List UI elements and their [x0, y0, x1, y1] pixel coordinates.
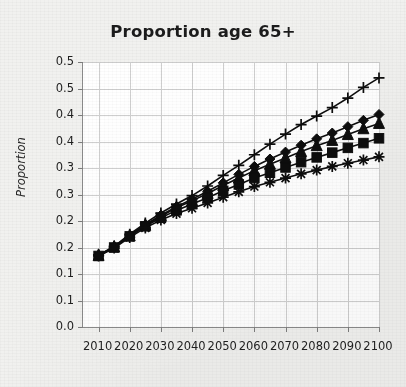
y-tick-label: 0.4: [40, 134, 74, 148]
marker-asterisk: [342, 158, 353, 169]
y-tick-label: 0.3: [40, 187, 74, 201]
marker-asterisk: [233, 186, 244, 197]
x-tick-mark: [286, 327, 287, 332]
x-tick-mark: [192, 327, 193, 332]
y-tick-mark: [78, 168, 83, 169]
marker-plus: [358, 82, 369, 93]
marker-square: [359, 138, 369, 148]
marker-square: [343, 143, 353, 153]
chart-title: Proportion age 65+: [0, 22, 406, 41]
marker-plus: [342, 93, 353, 104]
y-tick-mark: [78, 221, 83, 222]
marker-asterisk: [264, 177, 275, 188]
y-tick-label: 0.2: [40, 240, 74, 254]
y-tick-mark: [78, 301, 83, 302]
marker-square: [312, 153, 322, 163]
marker-asterisk: [109, 243, 120, 254]
y-tick-label: 0.1: [40, 266, 74, 280]
gridline-vertical: [379, 62, 380, 327]
x-tick-label: 2100: [358, 339, 398, 353]
y-axis-label: Proportion: [14, 122, 28, 212]
x-tick-mark: [223, 327, 224, 332]
marker-asterisk: [249, 181, 260, 192]
plot-area: [82, 62, 379, 328]
y-tick-mark: [78, 274, 83, 275]
y-tick-mark: [78, 248, 83, 249]
y-tick-mark: [78, 115, 83, 116]
marker-plus: [280, 129, 291, 140]
x-tick-mark: [99, 327, 100, 332]
marker-asterisk: [296, 168, 307, 179]
marker-square: [374, 134, 384, 144]
chart-figure: Proportion age 65+ Proportion 0.50.50.40…: [0, 0, 406, 387]
marker-asterisk: [327, 161, 338, 172]
y-tick-mark: [78, 89, 83, 90]
marker-square: [328, 148, 338, 158]
marker-asterisk: [171, 208, 182, 219]
x-tick-mark: [317, 327, 318, 332]
y-tick-mark: [78, 142, 83, 143]
marker-plus: [327, 102, 338, 113]
marker-asterisk: [140, 222, 151, 233]
marker-plus: [296, 119, 307, 130]
series-layer: [83, 62, 379, 327]
y-tick-mark: [78, 327, 83, 328]
marker-asterisk: [93, 250, 104, 261]
marker-triangle: [374, 117, 385, 129]
marker-asterisk: [358, 155, 369, 166]
y-tick-label: 0.0: [40, 319, 74, 333]
y-tick-label: 0.1: [40, 293, 74, 307]
y-tick-label: 0.5: [40, 54, 74, 68]
marker-asterisk: [155, 214, 166, 225]
marker-plus: [249, 149, 260, 160]
x-tick-mark: [161, 327, 162, 332]
marker-square: [281, 163, 291, 173]
x-tick-mark: [254, 327, 255, 332]
x-tick-mark: [379, 327, 380, 332]
marker-square: [265, 168, 275, 178]
marker-asterisk: [311, 165, 322, 176]
y-tick-label: 0.2: [40, 213, 74, 227]
y-tick-label: 0.5: [40, 81, 74, 95]
y-tick-mark: [78, 195, 83, 196]
x-tick-mark: [348, 327, 349, 332]
marker-asterisk: [218, 192, 229, 203]
y-tick-label: 0.4: [40, 107, 74, 121]
marker-plus: [311, 111, 322, 122]
y-tick-label: 0.3: [40, 160, 74, 174]
marker-square: [296, 157, 306, 167]
marker-asterisk: [124, 232, 135, 243]
y-tick-mark: [78, 62, 83, 63]
x-tick-mark: [130, 327, 131, 332]
marker-asterisk: [280, 173, 291, 184]
marker-plus: [374, 72, 385, 83]
marker-asterisk: [374, 151, 385, 162]
marker-asterisk: [187, 203, 198, 214]
marker-plus: [264, 139, 275, 150]
marker-asterisk: [202, 197, 213, 208]
